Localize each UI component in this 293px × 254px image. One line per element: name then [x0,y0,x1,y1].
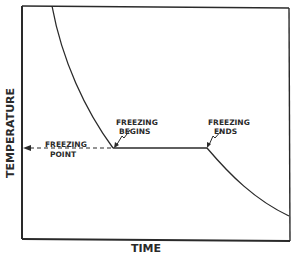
x-axis-label: TIME [131,242,161,254]
freezing-point-label-line1: FREEZING [45,140,87,149]
arrow-left-icon [23,145,31,151]
freezing-point-label-line2: POINT [50,150,77,159]
y-axis-label: TEMPERATURE [4,88,17,178]
freezing-ends-label-line1: FREEZING [208,118,250,127]
frame-top [22,6,289,8]
freezing-ends-label-line2: ENDS [214,127,237,136]
freezing-begins-label-line1: FREEZING [116,118,158,127]
frame-right [289,8,290,241]
cooling-curve-liquid [52,6,113,148]
freezing-begins-label-line2: BEGINS [119,127,150,136]
cooling-curve-diagram: FREEZING POINT FREEZING BEGINS FREEZING … [0,0,293,254]
x-axis [22,239,290,241]
cooling-curve-solid [207,148,289,216]
